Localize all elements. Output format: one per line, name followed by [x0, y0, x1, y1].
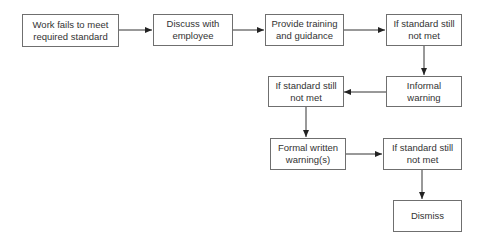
- node-dismiss: Dismiss: [393, 200, 462, 232]
- node-if-not-met-1: If standard still not met: [386, 14, 462, 46]
- node-if-not-met-2: If standard still not met: [268, 76, 344, 107]
- node-discuss-employee: Discuss with employee: [153, 14, 233, 46]
- node-informal-warning: Informal warning: [386, 76, 462, 107]
- node-provide-training: Provide training and guidance: [265, 14, 344, 46]
- node-work-fails: Work fails to meet required standard: [22, 14, 119, 47]
- node-if-not-met-3: If standard still not met: [383, 138, 462, 170]
- node-formal-warning: Formal written warning(s): [270, 138, 346, 170]
